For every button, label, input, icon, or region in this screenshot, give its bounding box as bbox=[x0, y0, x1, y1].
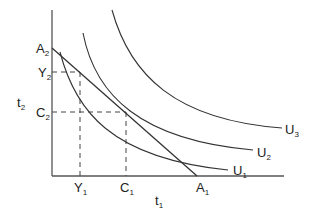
curve-u1 bbox=[60, 52, 228, 170]
dashed-guides bbox=[52, 72, 126, 176]
curve-u3 bbox=[112, 10, 282, 128]
label-t2: t2 bbox=[17, 95, 26, 112]
label-y1: Y1 bbox=[74, 180, 88, 197]
label-a1: A1 bbox=[196, 180, 210, 197]
label-c2: C2 bbox=[36, 105, 50, 122]
label-u2: U2 bbox=[257, 145, 271, 162]
indifference-diagram: A2 Y2 t2 C2 Y1 C1 A1 t1 U1 U2 U3 bbox=[0, 0, 309, 223]
label-a2: A2 bbox=[36, 41, 50, 58]
label-u1: U1 bbox=[233, 163, 247, 180]
label-u3: U3 bbox=[285, 122, 299, 139]
label-y2: Y2 bbox=[38, 65, 52, 82]
label-t1: t1 bbox=[155, 193, 164, 210]
label-c1: C1 bbox=[120, 180, 134, 197]
curve-u2 bbox=[83, 33, 253, 150]
